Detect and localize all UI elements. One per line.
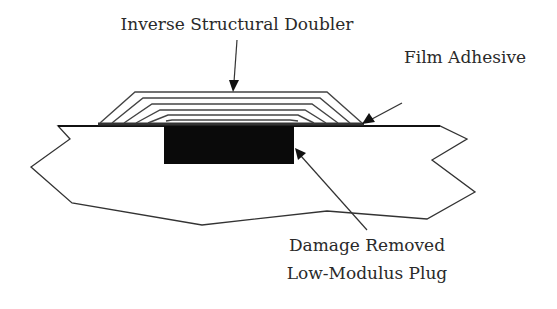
plug-arrowhead-icon bbox=[295, 148, 306, 160]
repair-diagram: Inverse Structural Doubler Film Adhesive… bbox=[0, 0, 557, 309]
inverse-structural-doubler bbox=[100, 92, 362, 123]
doubler-ply-6 bbox=[166, 120, 298, 121]
plug-label-line1: Damage Removed bbox=[289, 235, 445, 255]
doubler-ply-5 bbox=[148, 115, 314, 123]
doubler-arrowhead-icon bbox=[229, 80, 239, 92]
doubler-label: Inverse Structural Doubler bbox=[121, 14, 355, 34]
low-modulus-plug bbox=[164, 126, 294, 164]
adhesive-label: Film Adhesive bbox=[404, 47, 526, 67]
plug-label-line2: Low-Modulus Plug bbox=[287, 263, 448, 283]
film-adhesive-layer bbox=[98, 123, 364, 126]
adhesive-leader-line bbox=[372, 103, 402, 119]
doubler-ply-1 bbox=[100, 92, 362, 123]
doubler-leader-line bbox=[234, 40, 237, 82]
plug-leader-line bbox=[301, 156, 367, 230]
